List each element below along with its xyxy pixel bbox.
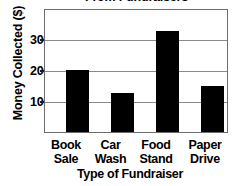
x-tick-label-car-wash: Car Wash bbox=[86, 138, 135, 166]
x-tick-line-2: Drive bbox=[180, 152, 230, 166]
x-tick-label-food-stand: Food Stand bbox=[131, 138, 181, 166]
plot-area bbox=[44, 9, 228, 133]
chart-title: From Fundraisers bbox=[44, 0, 229, 5]
bar-paper-drive bbox=[201, 86, 224, 133]
bar-car-wash bbox=[111, 93, 134, 132]
bar-book-sale bbox=[66, 70, 89, 132]
x-tick-label-book-sale: Book Sale bbox=[42, 138, 90, 166]
x-tick-line-1: Book bbox=[42, 138, 90, 152]
bar-chart: From Fundraisers Money Collected ($) 300… bbox=[0, 0, 232, 186]
bar-food-stand bbox=[156, 31, 179, 132]
x-axis-title: Type of Fundraiser bbox=[30, 167, 230, 181]
x-tick-label-paper-drive: Paper Drive bbox=[180, 138, 230, 166]
x-tick-line-2: Sale bbox=[42, 152, 90, 166]
x-tick-line-2: Stand bbox=[131, 152, 181, 166]
x-tick-line-1: Paper bbox=[180, 138, 230, 152]
x-tick-line-2: Wash bbox=[86, 152, 135, 166]
x-tick-line-1: Car bbox=[86, 138, 135, 152]
x-tick-line-1: Food bbox=[131, 138, 181, 152]
gridline-300 bbox=[45, 40, 227, 42]
